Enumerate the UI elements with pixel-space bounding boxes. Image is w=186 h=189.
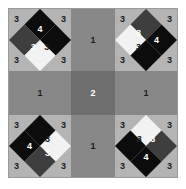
arm-right: 1 [115,71,177,115]
center-label: 2 [90,89,95,98]
block-bottom-right: 3 3 3 3 3 3 4 [115,115,177,177]
arm-label-right: 1 [143,89,148,98]
corner-label-bl: 3 [14,162,19,171]
diamond-label-white: 3 [44,43,49,52]
diamond-label-black: 4 [27,142,32,151]
diamond-label-white: 3 [45,135,50,144]
diamond-label-black: 4 [37,25,42,34]
arm-top: 1 [71,9,115,71]
corner-label-bl: 3 [14,56,19,65]
corner-label-br: 3 [167,162,172,171]
arm-bottom: 1 [71,115,115,177]
diamond-label-black: 4 [143,152,148,161]
arm-label-top: 1 [90,36,95,45]
corner-label-bl: 3 [120,162,125,171]
diamond-label-black: 4 [154,36,159,45]
corner-label-tl: 3 [14,15,19,24]
arm-label-left: 1 [37,89,42,98]
diamond-label-dark: 3 [150,134,155,143]
center-square: 2 [71,71,115,115]
diamond-label-white: 3 [137,134,142,143]
corner-label-tr: 3 [61,15,66,24]
arm-left: 1 [9,71,71,115]
corner-label-br: 3 [167,56,172,65]
diamond-label-dark: 3 [136,29,141,38]
corner-label-tr: 3 [61,121,66,130]
corner-label-br: 3 [61,162,66,171]
arm-label-bottom: 1 [90,142,95,151]
quilt-pattern-figure: 3 3 3 3 4 3 3 1 3 3 3 3 [8,8,178,178]
corner-label-br: 3 [61,56,66,65]
corner-label-bl: 3 [120,56,125,65]
diamond-label-white: 3 [136,42,141,51]
block-top-right: 3 3 3 3 4 3 3 [115,9,177,71]
corner-label-tl: 3 [14,121,19,130]
diamond-label-dark: 3 [31,43,36,52]
corner-label-tr: 3 [167,15,172,24]
pattern-grid: 3 3 3 3 4 3 3 1 3 3 3 3 [9,9,177,177]
corner-label-tl: 3 [120,15,125,24]
corner-label-tr: 3 [167,121,172,130]
block-top-left: 3 3 3 3 4 3 3 [9,9,71,71]
corner-label-tl: 3 [120,121,125,130]
block-bottom-left: 3 3 3 3 4 3 3 [9,115,71,177]
diamond-label-dark: 3 [45,149,50,158]
